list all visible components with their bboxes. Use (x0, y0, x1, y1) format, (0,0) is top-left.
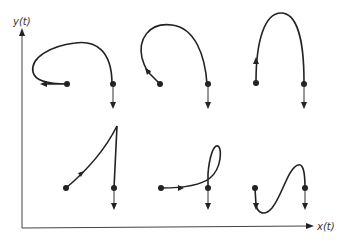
down-arrow-icon (205, 203, 211, 210)
right-arrow-icon (178, 185, 184, 191)
trajectory-curve (66, 126, 117, 188)
start-point (157, 81, 163, 87)
up-arrow-icon (253, 57, 259, 64)
trajectory-curve (161, 146, 220, 188)
trajectory-curve (33, 42, 112, 84)
x-axis (22, 226, 308, 228)
down-arrow-icon (301, 102, 307, 109)
y-axis-label: y(t) (12, 16, 31, 27)
down-arrow-icon (302, 203, 308, 210)
trajectory-curve (256, 13, 304, 82)
y-axis-arrow-icon (19, 28, 25, 36)
start-point (64, 81, 70, 87)
down-arrow-icon (110, 102, 116, 109)
start-point (158, 185, 164, 191)
down-arrow-icon (111, 203, 117, 210)
axes: y(t) x(t) (12, 16, 335, 232)
start-point (63, 185, 69, 191)
panel-top-left (33, 42, 116, 109)
trajectory-curve (255, 165, 305, 213)
panel-bottom-middle (158, 146, 220, 210)
panel-top-middle (141, 25, 211, 109)
down-arrow-icon (205, 102, 211, 109)
x-axis-arrow-icon (306, 223, 314, 229)
x-axis-label: x(t) (316, 221, 335, 232)
panel-bottom-left (63, 126, 117, 210)
panel-bottom-right (252, 165, 308, 213)
parametric-curves-diagram: y(t) x(t) (0, 0, 345, 242)
start-point (252, 185, 258, 191)
start-point (253, 80, 259, 86)
panel-top-right (253, 13, 307, 109)
